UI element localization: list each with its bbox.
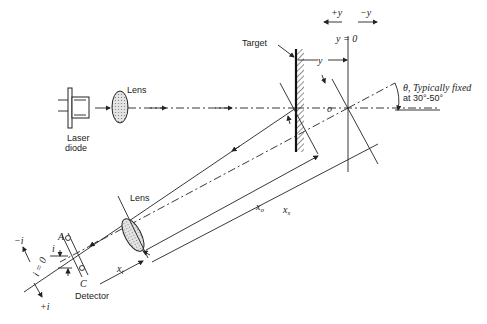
- lens-top-icon: [112, 91, 128, 123]
- laser-diode-label-2: diode: [65, 143, 87, 153]
- lens-top-label: Lens: [127, 85, 147, 95]
- plus-y-label: +y: [331, 7, 343, 18]
- theta-angle-arc: [395, 83, 399, 110]
- i-dimension-label: i: [52, 243, 55, 254]
- plus-i-label: +i: [40, 301, 50, 312]
- laser-diode-icon: [58, 88, 89, 128]
- target-hatch: [297, 49, 304, 152]
- laser-triangulation-diagram: Laser diode Lens Target y = 0 +y −y y o …: [0, 0, 487, 324]
- lens-bottom-label: Lens: [130, 193, 150, 203]
- i-zero-label: i = 0: [30, 255, 48, 277]
- minus-i-label: −i: [14, 235, 24, 246]
- detector-C-label: C: [80, 278, 87, 289]
- detector-A-label: A: [57, 231, 65, 242]
- x-s-label: xs: [282, 204, 290, 217]
- x-i-label: xi: [116, 263, 123, 276]
- y-zero-label: y = 0: [335, 33, 357, 44]
- theta-label-1: θ, Typically fixed: [403, 82, 472, 93]
- y-dimension-label: y: [317, 55, 323, 66]
- detector-icon: [62, 233, 88, 277]
- target-label: Target: [242, 38, 268, 48]
- minus-y-label: −y: [360, 7, 372, 18]
- o-label: o: [327, 103, 332, 114]
- detector-label: Detector: [75, 291, 109, 301]
- theta-label-2: at 30°-50°: [403, 93, 444, 103]
- laser-diode-label-1: Laser: [67, 133, 90, 143]
- x-o-label: xo: [255, 201, 264, 214]
